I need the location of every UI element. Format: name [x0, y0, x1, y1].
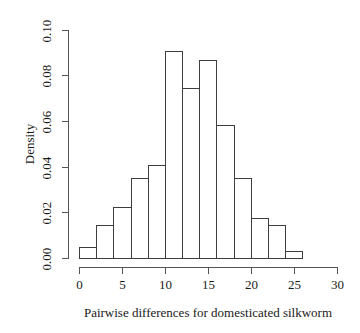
y-tick-label: 0.10 — [40, 19, 53, 42]
histogram-bar — [165, 51, 183, 259]
histogram-bar — [234, 178, 252, 259]
x-axis-title: Pairwise differences for domesticated si… — [84, 306, 332, 319]
y-tick-label: 0.08 — [40, 64, 53, 87]
x-tick — [251, 268, 252, 274]
y-tick-label: 0.00 — [40, 247, 53, 270]
histogram-bar — [96, 225, 114, 259]
histogram-bar — [113, 207, 132, 259]
y-tick — [62, 121, 68, 122]
y-axis-line — [68, 30, 69, 260]
x-tick — [122, 268, 123, 274]
histogram-bar — [182, 88, 200, 259]
histogram-bar — [79, 247, 97, 259]
y-tick — [62, 30, 68, 31]
x-tick — [294, 268, 295, 274]
x-tick-label: 15 — [202, 278, 215, 291]
y-tick-label: 0.06 — [40, 110, 53, 133]
x-tick-label: 20 — [245, 278, 258, 291]
x-tick-label: 25 — [288, 278, 301, 291]
histogram-bar — [199, 60, 217, 259]
x-tick-label: 10 — [159, 278, 172, 291]
y-tick-label: 0.04 — [40, 156, 53, 179]
y-tick — [62, 212, 68, 213]
y-tick-label: 0.02 — [40, 201, 53, 224]
y-tick — [62, 258, 68, 259]
histogram-chart: Density Pairwise differences for domesti… — [0, 0, 360, 333]
histogram-bar — [148, 165, 166, 259]
y-tick — [62, 167, 68, 168]
x-tick — [165, 268, 166, 274]
histogram-bar — [251, 218, 269, 259]
histogram-bar — [216, 125, 235, 259]
y-axis-title: Density — [23, 124, 36, 164]
x-tick — [208, 268, 209, 274]
histogram-bar — [131, 178, 149, 259]
y-tick — [62, 75, 68, 76]
x-tick-label: 5 — [119, 278, 126, 291]
x-tick — [337, 268, 338, 274]
histogram-bar — [268, 225, 286, 259]
x-tick-label: 0 — [76, 278, 83, 291]
histogram-bar — [285, 251, 303, 259]
x-tick-label: 30 — [331, 278, 344, 291]
x-tick — [79, 268, 80, 274]
